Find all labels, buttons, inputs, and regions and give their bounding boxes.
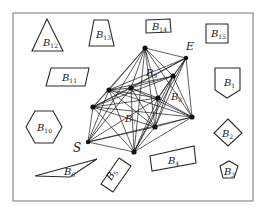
obstacle-b12: B12 [32, 19, 63, 51]
obstacle-b1: B1 [215, 68, 240, 98]
obstacle-b11: B11 [46, 68, 89, 86]
start-label: S [73, 141, 81, 155]
obstacle-b9: B9 [145, 67, 157, 79]
edge-S-n5 [88, 142, 134, 152]
node-e [184, 56, 188, 60]
node-n8 [170, 73, 175, 78]
obstacle-b6: B6 [35, 159, 97, 178]
node-n5 [131, 149, 136, 154]
end-label: E [185, 40, 194, 53]
edge-n4-n9 [131, 88, 158, 98]
obstacles-layer: B1B2B3B4B5B6B7B8B9B10B11B12B13B14B15 [26, 19, 242, 192]
obstacle-b15: B15 [206, 24, 228, 43]
edge-E-n7 [186, 58, 192, 117]
node-s [86, 140, 90, 144]
obstacle-b13: B13 [89, 20, 114, 46]
obstacle-b5: B5 [101, 158, 131, 192]
obstacle-label: B7 [124, 113, 136, 125]
edge-n6-n7 [155, 117, 192, 127]
obstacle-b2: B2 [214, 119, 242, 146]
node-n6 [152, 124, 157, 129]
obstacle-b7: B7 [124, 113, 136, 125]
obstacle-b3: B3 [220, 161, 238, 178]
obstacle-label: B9 [145, 67, 157, 79]
obstacle-b14: B14 [146, 19, 171, 33]
node-n7 [189, 114, 194, 119]
visibility-graph-diagram: B1B2B3B4B5B6B7B8B9B10B11B12B13B14B15 S E [0, 0, 262, 211]
edge-S-n3 [88, 90, 109, 142]
node-n9 [155, 95, 160, 100]
node-n3 [106, 87, 111, 92]
obstacle-b10: B10 [26, 111, 62, 143]
node-n4 [128, 85, 133, 90]
obstacle-b4: B4 [150, 146, 196, 171]
node-n2 [90, 104, 95, 109]
node-n1 [142, 45, 147, 50]
